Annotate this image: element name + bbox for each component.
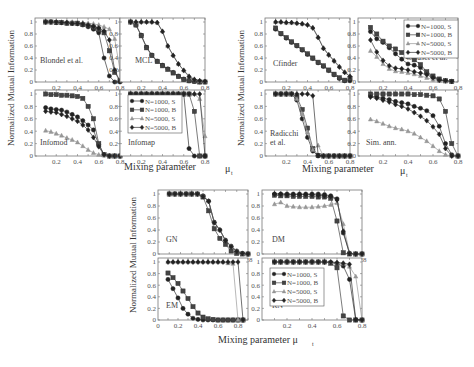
mu-subscript: t bbox=[312, 341, 314, 347]
panel-title: Infomod bbox=[40, 138, 68, 147]
y-tick-label: 0.6 bbox=[147, 282, 156, 290]
y-tick-label: 0.6 bbox=[147, 214, 156, 222]
x-tick-label: 0.6 bbox=[333, 322, 342, 330]
panel-title: GN bbox=[166, 235, 178, 244]
figure-canvas: 00.20.40.60.810.20.40.60.8Blondel et al.… bbox=[0, 0, 474, 367]
panel-gn: 00.20.40.60.810.20.40.60.8GN bbox=[147, 190, 253, 264]
plot-frame bbox=[120, 18, 205, 82]
y-tick-label: 0.2 bbox=[109, 66, 118, 74]
panel-title-cont: et al. bbox=[270, 138, 286, 147]
y-tick-label: 1 bbox=[257, 190, 261, 198]
y-tick-label: 0.4 bbox=[109, 54, 118, 62]
y-tick-label: 0.6 bbox=[254, 115, 263, 123]
legend: N=1000, SN=1000, BN=5000, SN=5000, B bbox=[128, 95, 182, 133]
x-tick-label: 0.2 bbox=[282, 158, 291, 166]
x-tick-label: 0.8 bbox=[454, 158, 463, 166]
legend-label: N=5000, B bbox=[145, 124, 177, 132]
y-tick-label: 0.8 bbox=[109, 30, 118, 38]
y-tick-label: 0.4 bbox=[24, 128, 33, 136]
y-tick-label: 0.6 bbox=[109, 42, 118, 50]
panel-title: Radicchi bbox=[270, 129, 299, 138]
y-tick-label: 0.2 bbox=[251, 305, 260, 313]
panel-rn: 00.20.40.60.810.20.40.60.8RNN=1000, SN=1… bbox=[251, 258, 367, 330]
y-tick-label: 1 bbox=[153, 258, 157, 266]
y-tick-label: 0.8 bbox=[251, 202, 260, 210]
panel-infomap: 00.20.40.60.810.20.40.60.8InfomapN=1000,… bbox=[109, 90, 210, 166]
panel-em: 00.20.40.60.8100.20.40.60.8EM bbox=[147, 258, 248, 330]
y-tick-label: 1 bbox=[115, 90, 119, 98]
y-tick-label: 0.8 bbox=[24, 30, 33, 38]
y-tick-label: 0 bbox=[30, 78, 34, 86]
y-tick-label: 1 bbox=[153, 190, 157, 198]
y-tick-label: 0.4 bbox=[24, 54, 33, 62]
x-tick-label: 0.8 bbox=[358, 322, 367, 330]
y-tick-label: 0.6 bbox=[109, 115, 118, 123]
y-tick-label: 0.4 bbox=[347, 128, 356, 136]
y-tick-label: 0.6 bbox=[24, 115, 33, 123]
legend: N=1000, SN=1000, BN=5000, SN=5000, B bbox=[404, 20, 458, 58]
y-axis-label: Normalized Mutual Information bbox=[128, 197, 138, 313]
x-tick-label: 0.4 bbox=[194, 322, 203, 330]
legend-label: N=5000, S bbox=[421, 40, 452, 48]
x-axis-label-bottom: Mixing parameter μ bbox=[218, 334, 298, 345]
mu-symbol: μ bbox=[225, 163, 230, 174]
x-tick-label: 0.2 bbox=[174, 322, 183, 330]
y-tick-label: 0.2 bbox=[347, 66, 356, 74]
x-tick-label: 0.6 bbox=[214, 322, 223, 330]
y-tick-label: 0 bbox=[260, 152, 264, 160]
y-tick-label: 0 bbox=[260, 78, 264, 86]
panel-dm: 00.20.40.60.810.20.40.60.8DM bbox=[251, 190, 367, 264]
panel-title: EM bbox=[166, 301, 178, 310]
y-tick-label: 0.4 bbox=[147, 226, 156, 234]
y-tick-label: 0.6 bbox=[347, 42, 356, 50]
y-tick-label: 0.8 bbox=[109, 103, 118, 111]
y-tick-label: 0.2 bbox=[347, 140, 356, 148]
y-tick-label: 0.6 bbox=[24, 42, 33, 50]
x-axis-label: Mixing parameter bbox=[302, 163, 375, 174]
y-tick-label: 0.6 bbox=[254, 42, 263, 50]
y-tick-label: 0.8 bbox=[24, 103, 33, 111]
panel-title: Cfinder bbox=[273, 59, 298, 68]
legend-label: N=5000, B bbox=[421, 49, 453, 57]
y-tick-label: 0 bbox=[353, 152, 357, 160]
y-tick-label: 0 bbox=[115, 78, 119, 86]
panel-title: Sim. ann. bbox=[366, 138, 396, 147]
y-tick-label: 1 bbox=[30, 90, 34, 98]
y-tick-label: 0.2 bbox=[109, 140, 118, 148]
panel-mcl: 00.20.40.60.810.20.40.60.8MCL bbox=[109, 18, 210, 92]
y-tick-label: 0.6 bbox=[251, 214, 260, 222]
mu-symbol: μ bbox=[400, 165, 405, 176]
y-tick-label: 0.2 bbox=[254, 66, 263, 74]
panel-clauset-et-al-: 00.20.40.60.810.20.40.60.8Clauset et al.… bbox=[347, 18, 463, 92]
x-tick-label: 0.8 bbox=[234, 322, 243, 330]
y-tick-label: 1 bbox=[353, 18, 357, 26]
x-tick-label: 0.4 bbox=[73, 158, 82, 166]
y-tick-label: 1 bbox=[260, 90, 264, 98]
y-tick-label: 0 bbox=[153, 250, 157, 258]
y-tick-label: 0.8 bbox=[147, 202, 156, 210]
y-tick-label: 0.2 bbox=[24, 66, 33, 74]
panel-radicchi-et-al-: 00.20.40.60.810.20.40.60.8Radicchiet al. bbox=[254, 90, 355, 166]
panel-sim-ann-: 00.20.40.60.810.20.40.60.8Sim. ann. bbox=[347, 90, 463, 166]
y-tick-label: 0.8 bbox=[147, 270, 156, 278]
x-tick-label: 0.2 bbox=[52, 158, 61, 166]
panel-cfinder: 00.20.40.60.810.20.40.60.8Cfinder bbox=[254, 18, 355, 92]
legend-label: N=1000, B bbox=[145, 106, 177, 114]
y-tick-label: 0.8 bbox=[251, 270, 260, 278]
y-tick-label: 1 bbox=[353, 90, 357, 98]
y-tick-label: 1 bbox=[257, 258, 261, 266]
y-tick-label: 0.4 bbox=[251, 293, 260, 301]
y-tick-label: 0 bbox=[257, 250, 261, 258]
y-tick-label: 0.4 bbox=[347, 54, 356, 62]
legend-label: N=1000, B bbox=[421, 31, 453, 39]
panel-title: DM bbox=[272, 235, 285, 244]
y-axis-label: Normalized Mutual Information bbox=[6, 30, 16, 146]
legend-label: N=5000, S bbox=[145, 115, 176, 123]
y-tick-label: 0.4 bbox=[251, 226, 260, 234]
x-axis-label: Mixing parameter bbox=[124, 161, 197, 172]
legend: N=1000, SN=1000, BN=5000, SN=5000, B bbox=[270, 268, 324, 306]
y-tick-label: 0.6 bbox=[347, 115, 356, 123]
y-tick-label: 0.4 bbox=[147, 293, 156, 301]
legend-label: N=1000, B bbox=[287, 279, 319, 287]
x-tick-label: 0 bbox=[156, 322, 160, 330]
